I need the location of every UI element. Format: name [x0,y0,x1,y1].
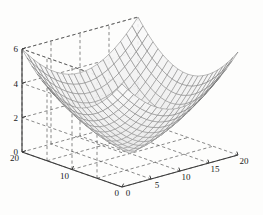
y-tick-label-10: 10 [60,171,70,181]
z-tick-label-4: 4 [14,79,19,89]
z-tick-label-6: 6 [14,44,19,54]
mesh-surface-group [22,17,238,154]
z-tickmark [22,82,26,83]
x-tick-label-15: 15 [211,164,221,174]
x-tick-label-10: 10 [182,172,192,182]
z-tickmark [22,151,26,152]
z-tickmark [22,116,26,117]
x-tick-label-0: 0 [126,188,131,198]
surface-plot-svg: 02460102005101520 [0,0,263,215]
x-tick-label-5: 5 [155,180,160,190]
y-tick-label-20: 20 [10,153,20,163]
y-tick-label-0: 0 [115,188,120,198]
z-tickmark [22,48,26,49]
z-tick-label-2: 2 [14,113,19,123]
mesh-cell [227,52,238,66]
x-tick-label-20: 20 [240,156,250,166]
figure-canvas: 02460102005101520 [0,0,263,215]
floor-gridline-y [97,146,213,178]
